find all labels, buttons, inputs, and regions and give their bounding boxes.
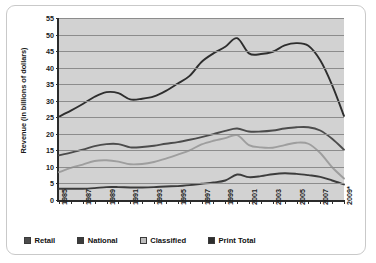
x-tick-mark	[261, 200, 262, 204]
y-tick-mark	[56, 134, 59, 135]
x-tick-mark	[213, 200, 214, 204]
y-tick-mark	[56, 68, 59, 69]
x-tick-label: 1987	[84, 189, 93, 205]
x-tick-label: 1999	[226, 189, 235, 205]
y-tick-label: 35	[32, 80, 54, 89]
legend-swatch-icon	[208, 237, 215, 244]
y-tick-label: 40	[32, 63, 54, 72]
y-tick-mark	[56, 117, 59, 118]
series-line-national	[59, 173, 344, 189]
x-tick-mark	[332, 200, 333, 204]
x-tick-label: 1989	[108, 189, 117, 205]
gridline	[59, 183, 344, 184]
legend-item[interactable]: Classified	[140, 236, 186, 245]
y-tick-label: 10	[32, 162, 54, 171]
x-tick-mark	[95, 200, 96, 204]
y-tick-mark	[56, 35, 59, 36]
y-tick-mark	[56, 84, 59, 85]
gridline	[59, 117, 344, 118]
series-lines	[59, 18, 344, 200]
x-tick-mark	[71, 200, 72, 204]
series-line-print-total	[59, 38, 344, 117]
y-tick-label: 20	[32, 129, 54, 138]
chart-legend: RetailNationalClassifiedPrint Total	[24, 233, 354, 247]
x-tick-label: 1993	[155, 189, 164, 205]
gridline	[59, 101, 344, 102]
gridline	[59, 35, 344, 36]
legend-swatch-icon	[24, 237, 31, 244]
legend-swatch-icon	[140, 237, 147, 244]
gridline	[59, 68, 344, 69]
x-tick-label: 2005	[298, 189, 307, 205]
y-axis-title: Revenue (in billions of dollars)	[19, 21, 28, 181]
y-tick-label: 30	[32, 96, 54, 105]
plot-area	[57, 18, 344, 202]
x-tick-mark	[142, 200, 143, 204]
y-tick-mark	[56, 18, 59, 19]
y-tick-mark	[56, 150, 59, 151]
x-tick-label: 2003	[274, 189, 283, 205]
legend-swatch-icon	[77, 237, 84, 244]
gridline	[59, 134, 344, 135]
x-tick-mark	[237, 200, 238, 204]
legend-item[interactable]: Print Total	[208, 236, 255, 245]
x-tick-mark	[118, 200, 119, 204]
x-tick-label: 1997	[203, 189, 212, 205]
y-tick-label: 45	[32, 47, 54, 56]
series-line-classified	[59, 135, 344, 179]
legend-item[interactable]: Retail	[24, 236, 55, 245]
x-tick-label: 1991	[131, 189, 140, 205]
legend-item[interactable]: National	[77, 236, 117, 245]
x-tick-label: 1995	[179, 189, 188, 205]
y-tick-label: 15	[32, 146, 54, 155]
y-tick-mark	[56, 167, 59, 168]
x-tick-mark	[285, 200, 286, 204]
y-tick-label: 55	[32, 14, 54, 23]
gridline	[59, 18, 344, 19]
legend-label: Classified	[150, 236, 186, 245]
y-tick-mark	[56, 183, 59, 184]
gridline	[59, 84, 344, 85]
gridline	[59, 167, 344, 168]
gridline	[59, 150, 344, 151]
x-tick-mark	[190, 200, 191, 204]
x-tick-label: 2007	[321, 189, 330, 205]
legend-label: National	[88, 236, 118, 245]
y-axis-tick-labels: 0510152025303540455055	[28, 0, 54, 263]
x-tick-label: 1985	[60, 189, 69, 205]
y-tick-label: 50	[32, 30, 54, 39]
y-tick-label: 0	[32, 196, 54, 205]
gridline	[59, 51, 344, 52]
y-tick-mark	[56, 51, 59, 52]
legend-label: Retail	[35, 236, 56, 245]
x-tick-label: 2001	[250, 189, 259, 205]
legend-label: Print Total	[219, 236, 256, 245]
y-tick-label: 5	[32, 179, 54, 188]
y-tick-mark	[56, 101, 59, 102]
line-chart: Revenue (in billions of dollars) 0510152…	[0, 0, 376, 263]
x-tick-mark	[166, 200, 167, 204]
x-tick-mark	[308, 200, 309, 204]
y-tick-label: 25	[32, 113, 54, 122]
x-tick-label: 2009*	[345, 186, 354, 205]
